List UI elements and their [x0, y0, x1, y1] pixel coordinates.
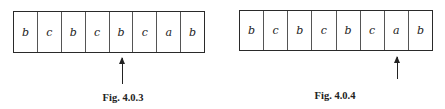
tape-left: b c b c b c a b: [13, 11, 205, 53]
head-arrow-icon: [397, 57, 398, 79]
head-arrow-icon: [122, 58, 123, 84]
tape-cell: b: [14, 12, 38, 52]
tape-cell: b: [409, 11, 432, 50]
tape-cell: c: [361, 11, 385, 50]
tape-cell: b: [288, 11, 312, 50]
tape-cell: a: [157, 12, 181, 52]
figure-caption: Fig. 4.0.3: [103, 92, 144, 103]
tape-cell: c: [133, 12, 157, 52]
tape-cell-head: b: [110, 12, 134, 52]
tape-cell: b: [240, 11, 264, 50]
tape-cell: b: [337, 11, 361, 50]
tape-cell: b: [62, 12, 86, 52]
tape-cell-head: a: [385, 11, 409, 50]
tape-cell: c: [38, 12, 62, 52]
tape-right: b c b c b c a b: [239, 10, 433, 51]
tape-cell: b: [181, 12, 204, 52]
tape-cell: c: [312, 11, 336, 50]
tape-cell: c: [264, 11, 288, 50]
tape-cell: c: [86, 12, 110, 52]
figure-caption: Fig. 4.0.4: [315, 90, 356, 101]
